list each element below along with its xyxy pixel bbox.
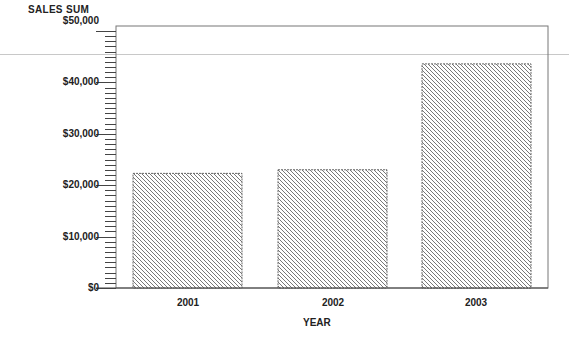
y-tick-label-20000: $20,000: [63, 179, 99, 190]
bars: [133, 64, 531, 288]
bar-2003: [422, 64, 531, 288]
y-tick-label-40000: $40,000: [63, 76, 99, 87]
x-axis-title: YEAR: [303, 317, 331, 328]
bar-chart: [0, 0, 569, 341]
x-tick-label-2001: 2001: [158, 297, 218, 308]
y-tick-label-0: $0: [88, 282, 99, 293]
bar-2002: [278, 170, 387, 288]
x-tick-label-2003: 2003: [446, 297, 506, 308]
y-axis-ticks: [96, 32, 116, 289]
y-tick-label-30000: $30,000: [63, 128, 99, 139]
y-tick-label-10000: $10,000: [63, 231, 99, 242]
x-tick-label-2002: 2002: [303, 297, 363, 308]
y-tick-label-50000: $50,000: [63, 15, 99, 26]
y-axis-title: SALES SUM: [28, 4, 89, 15]
bar-2001: [133, 173, 242, 288]
